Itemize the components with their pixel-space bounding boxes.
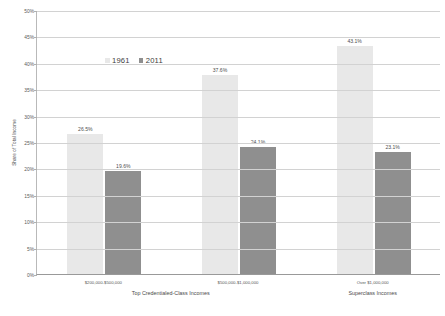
y-axis-tickmark — [34, 222, 37, 223]
y-axis-tick-label: 25% — [8, 141, 34, 146]
y-axis-tick-label: 10% — [8, 220, 34, 225]
legend-swatch-icon — [105, 58, 110, 63]
gridline — [37, 222, 440, 223]
y-axis-tick-label: 0% — [8, 273, 34, 278]
gridline — [37, 64, 440, 65]
x-axis-category-label: $500,000-$1,000,000 — [218, 280, 259, 285]
y-axis-tickmark — [34, 196, 37, 197]
x-axis-category-label: $200,000-$500,000 — [85, 280, 122, 285]
y-axis-tickmark — [34, 143, 37, 144]
y-axis-tickmark — [34, 90, 37, 91]
x-axis-group-label: Top Credentialed-Class Incomes — [132, 290, 210, 296]
bar-chart: Share of Total Income 0%5%10%15%20%25%30… — [0, 0, 445, 316]
x-axis-group-labels: Top Credentialed-Class IncomesSuperclass… — [36, 290, 440, 302]
y-axis-tickmark — [34, 37, 37, 38]
bar-value-label: 43.1% — [347, 38, 361, 44]
gridline — [37, 169, 440, 170]
y-axis-tick-label: 20% — [8, 167, 34, 172]
legend-swatch-icon — [139, 58, 144, 63]
bar-1961-3: 43.1% — [337, 46, 373, 274]
bar-value-label: 37.6% — [213, 67, 227, 73]
y-axis-tickmark — [34, 275, 37, 276]
y-axis-tickmark — [34, 64, 37, 65]
y-axis-tick-label: 50% — [8, 9, 34, 14]
bar-value-label: 23.1% — [385, 144, 399, 150]
gridline — [37, 11, 440, 12]
bar-2011-2: 24.1% — [240, 147, 276, 274]
y-axis-tickmark — [34, 169, 37, 170]
y-axis-tickmark — [34, 117, 37, 118]
x-axis-group-label: Superclass Incomes — [348, 290, 397, 296]
y-axis-tick-label: 15% — [8, 193, 34, 198]
y-axis-tick-labels: 0%5%10%15%20%25%30%35%40%45%50% — [8, 11, 34, 275]
y-axis-tick-label: 30% — [8, 114, 34, 119]
x-axis-category-label: Over $1,000,000 — [357, 280, 389, 285]
gridline — [37, 143, 440, 144]
y-axis-tick-label: 40% — [8, 61, 34, 66]
y-axis-tick-label: 35% — [8, 88, 34, 93]
gridline — [37, 249, 440, 250]
bar-1961-1: 26.5% — [67, 134, 103, 274]
y-axis-tick-label: 5% — [8, 246, 34, 251]
x-axis-category-labels: $200,000-$500,000$500,000-$1,000,000Over… — [36, 280, 440, 290]
gridline — [37, 37, 440, 38]
y-axis-tickmark — [34, 249, 37, 250]
bar-1961-2: 37.6% — [202, 75, 238, 274]
gridline — [37, 196, 440, 197]
bar-value-label: 26.5% — [78, 126, 92, 132]
plot-area: 26.5%19.6%37.6%24.1%43.1%23.1% 19612011 — [36, 11, 440, 275]
gridline — [37, 117, 440, 118]
gridline — [37, 90, 440, 91]
y-axis-tickmark — [34, 11, 37, 12]
bar-value-label: 19.6% — [116, 163, 130, 169]
y-axis-tick-label: 45% — [8, 35, 34, 40]
